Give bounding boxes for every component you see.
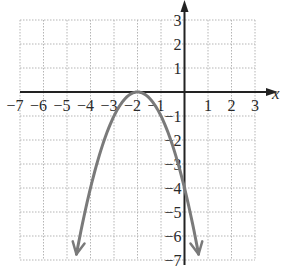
y-axis-arrow-icon: [181, 0, 189, 12]
y-tick-label: −7: [164, 252, 181, 269]
x-axis-label: x: [271, 84, 280, 103]
x-tick-label: −7: [6, 97, 23, 114]
x-tick-label: −5: [53, 97, 70, 114]
axes: x: [20, 0, 280, 265]
x-tick-label: −2: [124, 97, 141, 114]
x-tick-label: 2: [228, 97, 236, 114]
x-tick-label: −4: [77, 97, 94, 114]
grid-lines: [20, 20, 255, 260]
parabola-graph: x −7−6−5−4−3−2−1123321−1−2−3−4−5−6−7: [0, 0, 281, 270]
y-tick-label: 2: [174, 36, 182, 53]
y-tick-label: −1: [164, 108, 181, 125]
y-tick-label: 1: [174, 60, 182, 77]
y-tick-label: −4: [164, 180, 181, 197]
x-tick-label: 3: [251, 97, 259, 114]
x-tick-label: 1: [204, 97, 212, 114]
y-tick-label: 3: [174, 12, 182, 29]
y-tick-label: −6: [164, 228, 181, 245]
x-tick-label: −6: [30, 97, 47, 114]
y-tick-label: −5: [164, 204, 181, 221]
